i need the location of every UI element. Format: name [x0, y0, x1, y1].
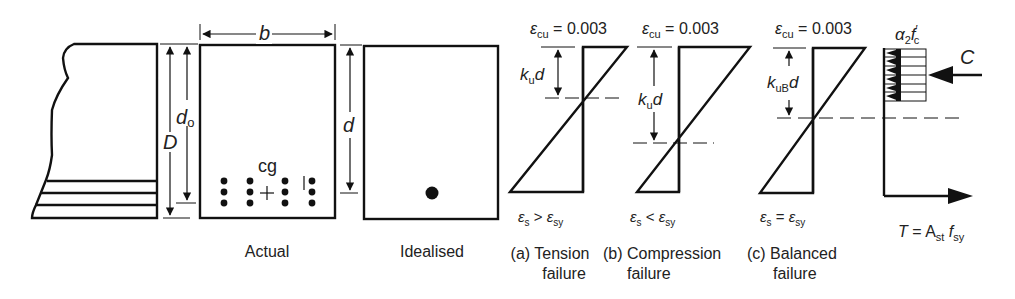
strain-b-caption-1: (b) Compression: [603, 245, 721, 262]
strain-c-top-label: εcu = 0.003: [775, 20, 852, 40]
stress-block: α2f′c C T = Ast fsy: [884, 23, 982, 243]
d-label: d: [343, 114, 355, 136]
strain-c-caption-1: (c) Balanced: [747, 245, 837, 262]
strain-a-bottom-label: εs > εsy: [518, 208, 563, 228]
strain-b-caption-2: failure: [627, 265, 671, 282]
strain-c-kubd-label: kuBd: [767, 73, 799, 94]
b-label: b: [259, 22, 270, 44]
tension-force-arrow: [948, 188, 973, 204]
strain-c-bottom-label: εs = εsy: [760, 208, 805, 228]
actual-section: b cg d Actual: [200, 22, 362, 260]
alpha2-fc-label: α2f′c: [895, 23, 920, 46]
idealised-section: Idealised: [364, 46, 498, 260]
reinforcement-bars: [221, 178, 316, 207]
strain-diagram-balanced: εcu = 0.003 kuBd εs = εsy (c) Balanced f…: [747, 20, 960, 282]
strain-a-caption-2: failure: [542, 265, 586, 282]
strain-diagram-tension: εcu = 0.003 kud εs > εsy (a) Tension fai…: [510, 20, 627, 282]
beam-elevation: D do: [32, 44, 198, 218]
strain-a-caption-1: (a) Tension: [511, 245, 590, 262]
idealised-caption: Idealised: [400, 243, 464, 260]
cg-label: cg: [258, 156, 277, 176]
strain-b-bottom-label: εs < εsy: [630, 208, 675, 228]
strain-a-top-label: εcu = 0.003: [530, 20, 607, 40]
compression-force-arrow: [928, 66, 953, 84]
D-label: D: [163, 131, 177, 153]
strain-b-top-label: εcu = 0.003: [642, 20, 719, 40]
strain-diagram-compression: εcu = 0.003 kud εs < εsy (b) Compression…: [603, 20, 750, 282]
actual-caption: Actual: [245, 243, 289, 260]
rc-beam-failure-diagram: D do b cg d Actual: [0, 0, 1015, 299]
idealised-steel-bar: [426, 187, 439, 200]
C-label: C: [960, 46, 975, 68]
T-label: T = Ast fsy: [898, 223, 965, 243]
strain-c-caption-2: failure: [773, 265, 817, 282]
